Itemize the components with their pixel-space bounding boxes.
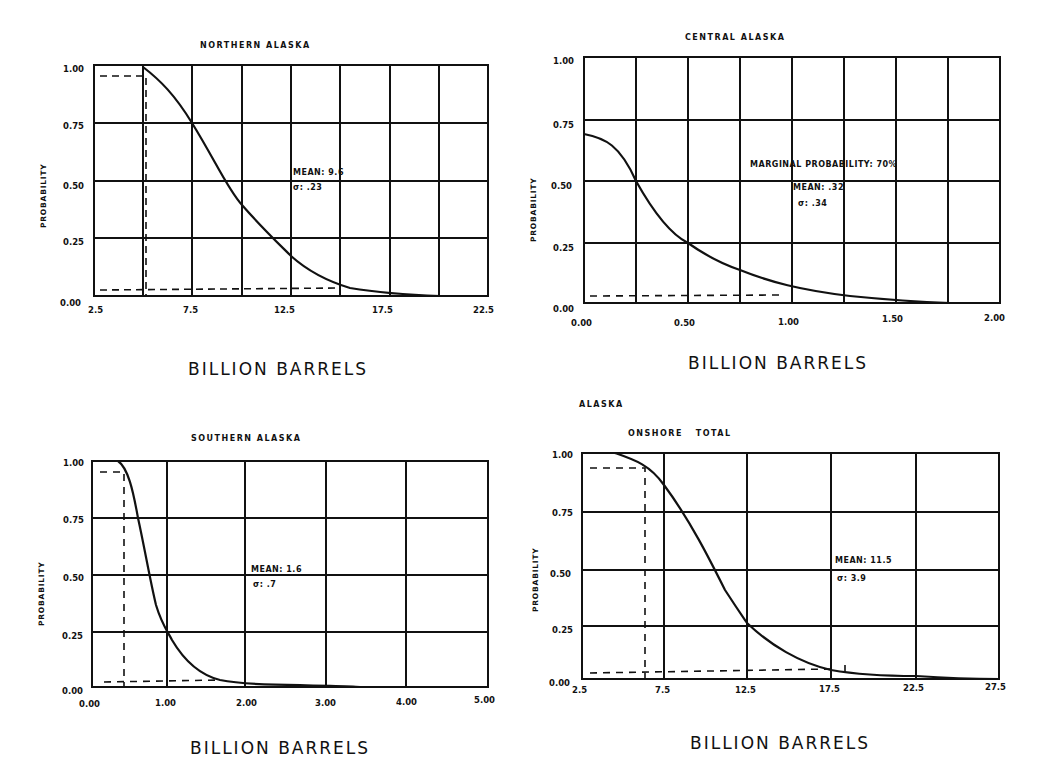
y-ticks: 1.00 0.75 0.50 0.25 0.00 [549,450,573,688]
svg-text:0.75: 0.75 [63,121,84,131]
svg-text:1.00: 1.00 [155,698,176,708]
svg-text:0.75: 0.75 [553,120,574,130]
svg-text:2.5: 2.5 [88,305,103,315]
svg-text:0.75: 0.75 [552,508,573,518]
chart-title: CENTRAL ALASKA [685,33,785,42]
svg-text:0.50: 0.50 [550,569,571,579]
marginal-probability-label: MARGINAL PROBABILITY: 70% [750,160,897,169]
x-ticks: 2.5 7.5 12.5 17.5 22.5 [88,305,494,315]
svg-text:22.5: 22.5 [903,683,924,693]
svg-text:17.5: 17.5 [372,305,393,315]
svg-text:12.5: 12.5 [735,685,756,695]
svg-text:4.00: 4.00 [396,697,417,707]
svg-text:1.00: 1.00 [778,317,799,327]
mean-label: MEAN: 1.6 [251,565,302,574]
svg-text:5.00: 5.00 [474,695,495,705]
y-ticks: 1.00 0.75 0.50 0.25 0.00 [551,56,574,314]
chart-supertitle: ALASKA [579,400,624,409]
chart-title: NORTHERN ALASKA [200,41,311,50]
y-ticks: 1.00 0.75 0.50 0.25 0.00 [62,458,84,696]
svg-text:0.75: 0.75 [63,515,84,525]
chart-southern-alaska: SOUTHERN ALASKA MEAN: 1.6 σ: .7 1.00 0.7… [37,434,495,758]
x-axis-label: BILLION BARRELS [688,353,868,373]
svg-text:0.00: 0.00 [571,318,592,328]
chart-title: SOUTHERN ALASKA [191,434,301,443]
svg-text:0.00: 0.00 [60,298,81,308]
mean-label: MEAN: 11.5 [835,556,892,565]
svg-text:7.5: 7.5 [655,685,670,695]
svg-text:0.50: 0.50 [63,181,84,191]
reference-lines [100,472,220,687]
mean-label: MEAN: 9.6 [293,168,344,177]
svg-text:17.5: 17.5 [819,684,840,694]
chart-northern-alaska: NORTHERN ALASKA MEAN: 9.6 σ: .23 1.00 0.… [39,41,494,379]
svg-text:0.00: 0.00 [79,699,100,709]
svg-text:0.00: 0.00 [549,678,570,688]
svg-text:22.5: 22.5 [473,305,494,315]
x-ticks: 0.00 0.50 1.00 1.50 2.00 [571,313,1005,328]
svg-text:12.5: 12.5 [274,305,295,315]
x-axis-label: BILLION BARRELS [690,733,870,753]
svg-text:0.25: 0.25 [553,243,574,253]
svg-text:2.00: 2.00 [984,313,1005,323]
svg-text:0.00: 0.00 [62,686,83,696]
svg-text:0.50: 0.50 [63,573,84,583]
sigma-label: σ: .23 [293,183,322,192]
chart-alaska-onshore-total: ALASKA ONSHORE TOTAL MEAN: 11.5 σ: 3.9 1… [531,400,1006,753]
svg-text:0.50: 0.50 [551,181,572,191]
chart-central-alaska: CENTRAL ALASKA MARGINAL PROBABILITY: 70%… [529,33,1005,373]
x-axis-label: BILLION BARRELS [188,359,368,379]
figure: NORTHERN ALASKA MEAN: 9.6 σ: .23 1.00 0.… [0,0,1043,783]
y-axis-label: PROBABILITY [37,561,46,626]
svg-text:2.5: 2.5 [572,685,587,695]
x-axis-label: BILLION BARRELS [190,738,370,758]
svg-text:1.00: 1.00 [63,458,84,468]
grid [94,65,488,296]
x-ticks: 0.00 1.00 2.00 3.00 4.00 5.00 [79,695,495,709]
svg-text:1.00: 1.00 [552,450,573,460]
svg-text:0.25: 0.25 [552,625,573,635]
svg-text:1.00: 1.00 [553,56,574,66]
svg-text:3.00: 3.00 [315,698,336,708]
mean-label: MEAN: .32 [793,183,844,192]
y-axis-label: PROBABILITY [529,177,538,242]
svg-text:0.25: 0.25 [62,631,83,641]
svg-text:0.25: 0.25 [63,237,84,247]
svg-text:0.00: 0.00 [553,304,574,314]
x-ticks: 2.5 7.5 12.5 17.5 22.5 27.5 [572,682,1006,695]
y-axis-label: PROBABILITY [531,547,540,612]
reference-lines [590,295,780,296]
sigma-label: σ: .7 [253,580,276,589]
grid [92,461,488,687]
svg-text:7.5: 7.5 [183,305,198,315]
y-axis-label: PROBABILITY [39,163,48,228]
grid [584,57,1000,303]
figure-canvas: NORTHERN ALASKA MEAN: 9.6 σ: .23 1.00 0.… [0,0,1043,783]
svg-text:27.5: 27.5 [985,682,1006,692]
svg-text:1.00: 1.00 [63,64,84,74]
svg-text:1.50: 1.50 [882,314,903,324]
probability-curve [582,453,999,679]
svg-text:0.50: 0.50 [674,318,695,328]
chart-title: ONSHORE TOTAL [628,429,732,438]
grid [582,453,999,679]
y-ticks: 1.00 0.75 0.50 0.25 0.00 [60,64,84,308]
sigma-label: σ: .34 [798,199,827,208]
svg-text:2.00: 2.00 [236,698,257,708]
sigma-label: σ: 3.9 [837,574,866,583]
